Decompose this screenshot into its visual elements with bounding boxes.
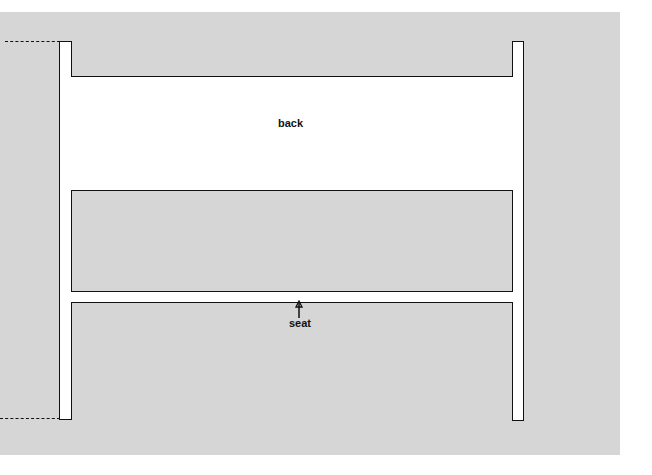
top-dashed-guide <box>5 41 60 42</box>
seat-arrow-icon <box>293 300 305 318</box>
back-panel: back <box>71 76 513 191</box>
bottom-dashed-guide <box>0 418 60 419</box>
right-post <box>512 41 524 421</box>
seat-label: seat <box>289 317 311 329</box>
seat-bar <box>71 291 513 303</box>
back-label: back <box>278 117 303 129</box>
